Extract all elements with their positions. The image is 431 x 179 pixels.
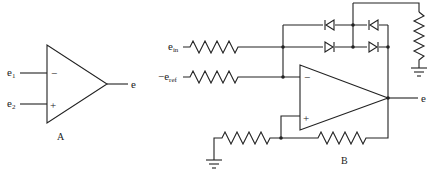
circuit-b: ein −eref [158,3,427,168]
input-label-e1: e1 [7,66,16,80]
circuit-a: − + e1 e2 e A [7,45,136,142]
input-label-e2: e2 [7,97,16,111]
plus-terminal-b: + [303,112,309,124]
resistor-feedback [281,98,388,144]
op-amp-b [300,65,388,130]
diode-icon [323,41,335,53]
output-label-b: e [421,92,426,104]
plus-terminal-a: + [50,99,56,111]
resistor-ein [183,41,283,53]
diode-icon [367,41,379,53]
ground-icon [206,160,222,168]
node-dot [351,45,355,49]
node-dot [281,75,285,79]
minus-terminal-a: − [51,67,57,79]
circuit-diagram: − + e1 e2 e A ein −eref [0,0,431,179]
input-label-ein: ein [168,40,179,54]
wire-plus-input [281,116,300,138]
label-a: A [57,131,65,142]
node-dot [351,23,355,27]
minus-terminal-b: − [304,71,310,83]
ground-icon [411,68,427,76]
resistor-vertical [414,12,424,68]
wire-top [353,3,419,12]
op-amp-a [47,45,107,123]
resistor-ground [214,132,281,160]
diode-icon [323,19,335,31]
label-b: B [341,155,348,166]
input-label-eref: −eref [158,70,178,84]
output-label-a: e [131,78,136,90]
diode-icon [367,19,379,31]
